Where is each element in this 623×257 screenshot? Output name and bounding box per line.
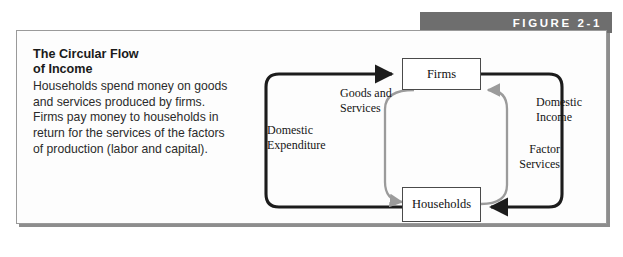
flow-label-goods-and-services: Goods and Services bbox=[340, 86, 392, 115]
node-firms-label: Firms bbox=[427, 67, 456, 82]
node-firms: Firms bbox=[402, 58, 481, 90]
circular-flow-diagram: Firms Households Domestic Expenditure Go… bbox=[239, 37, 604, 219]
figure-number-label: FIGURE 2-1 bbox=[513, 17, 602, 29]
flow-label-domestic-income: Domestic Income bbox=[536, 95, 582, 124]
node-households: Households bbox=[402, 187, 481, 222]
arrow-domestic-income bbox=[481, 74, 562, 207]
figure-frame: The Circular Flow of Income Households s… bbox=[16, 30, 607, 224]
flow-label-domestic-expenditure: Domestic Expenditure bbox=[267, 123, 326, 152]
caption-block: The Circular Flow of Income Households s… bbox=[33, 47, 233, 158]
node-households-label: Households bbox=[412, 197, 471, 212]
figure-description: Households spend money on goods and serv… bbox=[33, 79, 233, 158]
flow-label-factor-services: Factor Services bbox=[492, 142, 560, 171]
figure-title: The Circular Flow of Income bbox=[33, 47, 233, 78]
